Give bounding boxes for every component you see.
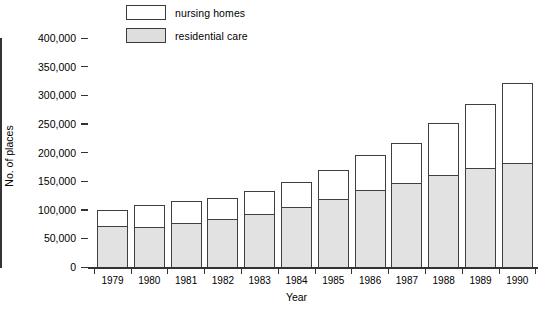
bar-segment-residential-care (207, 219, 238, 267)
bar-segment-nursing-homes (428, 123, 459, 176)
x-axis-tick (94, 269, 95, 274)
bar-segment-residential-care (502, 163, 533, 267)
y-axis-tick (81, 95, 88, 96)
y-axis-tick (81, 66, 88, 67)
x-axis-tick (278, 269, 279, 274)
x-axis-tick (204, 269, 205, 274)
bar-segment-nursing-homes (281, 182, 312, 207)
bar-segment-residential-care (318, 199, 349, 267)
bar-1981 (171, 201, 202, 267)
bar-segment-nursing-homes (318, 170, 349, 199)
bar-segment-nursing-homes (244, 191, 275, 213)
y-axis-tick (81, 38, 88, 39)
y-axis-tick (81, 267, 88, 268)
x-axis-label-1990: 1990 (495, 275, 539, 286)
bar-segment-residential-care (97, 226, 128, 267)
x-axis-labels: 1979198019811982198319841985198619871988… (88, 269, 538, 299)
plot-area (88, 38, 530, 267)
y-axis-tick-label: 50,000 (0, 232, 76, 244)
bar-segment-nursing-homes (171, 201, 202, 223)
bar-1983 (244, 191, 275, 267)
bar-1989 (465, 104, 496, 267)
bar-1984 (281, 182, 312, 267)
bar-segment-nursing-homes (502, 83, 533, 163)
bar-1985 (318, 170, 349, 267)
x-axis-tick (462, 269, 463, 274)
x-axis-tick (499, 269, 500, 274)
bar-segment-residential-care (281, 207, 312, 267)
y-axis-tick (81, 238, 88, 239)
bar-segment-nursing-homes (134, 205, 165, 227)
bar-segment-nursing-homes (207, 198, 238, 220)
bar-1987 (391, 143, 422, 267)
bar-1988 (428, 123, 459, 267)
bar-segment-residential-care (465, 168, 496, 267)
x-axis-tick (167, 269, 168, 274)
y-axis-tick-label: 400,000 (0, 32, 76, 44)
x-axis-tick (351, 269, 352, 274)
bar-1990 (502, 83, 533, 267)
y-axis-tick (81, 152, 88, 153)
y-axis-tick-label: 0 (0, 261, 76, 273)
y-axis-tick (81, 123, 88, 124)
legend-label-nursing-homes: nursing homes (175, 7, 245, 19)
x-axis-tick (131, 269, 132, 274)
bar-segment-nursing-homes (97, 210, 128, 226)
legend-item-nursing-homes: nursing homes (126, 3, 248, 22)
bar-segment-residential-care (428, 175, 459, 267)
y-axis-title: No. of places (3, 91, 15, 221)
x-axis-tick (535, 269, 536, 274)
bar-segment-nursing-homes (465, 104, 496, 168)
x-axis-tick (425, 269, 426, 274)
chart-figure: nursing homes residential care 050,00010… (0, 0, 547, 315)
bar-segment-residential-care (391, 183, 422, 267)
x-axis-tick (315, 269, 316, 274)
bar-1980 (134, 205, 165, 267)
x-axis-tick (241, 269, 242, 274)
bar-segment-residential-care (244, 214, 275, 267)
y-axis-tick (81, 181, 88, 182)
bar-1979 (97, 210, 128, 267)
bar-1986 (355, 155, 386, 267)
bar-segment-residential-care (134, 227, 165, 267)
legend-swatch-nursing-homes (126, 5, 166, 20)
bar-segment-residential-care (355, 190, 386, 267)
x-axis-tick (388, 269, 389, 274)
bar-segment-residential-care (171, 223, 202, 267)
y-axis-tick-label: 350,000 (0, 61, 76, 73)
bar-1982 (207, 198, 238, 267)
bar-segment-nursing-homes (355, 155, 386, 189)
bar-segment-nursing-homes (391, 143, 422, 183)
y-axis-line (0, 38, 2, 268)
y-axis-tick (81, 209, 88, 210)
